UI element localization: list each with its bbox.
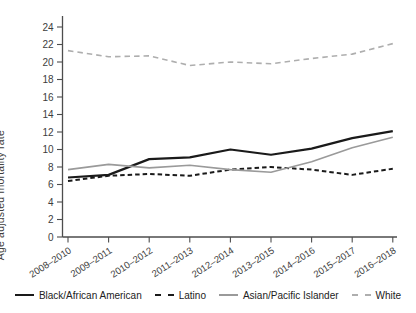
svg-text:2012–2014: 2012–2014 bbox=[190, 244, 236, 279]
svg-text:0: 0 bbox=[48, 232, 54, 243]
line-sample-dashed-black bbox=[155, 294, 174, 296]
y-axis-title-text: Age adjusted mortality rate bbox=[0, 130, 6, 260]
line-sample-solid-gray bbox=[219, 294, 238, 296]
chart-canvas: 0246810121416182022242008–20102009–20112… bbox=[0, 0, 416, 313]
svg-text:2016–2018: 2016–2018 bbox=[352, 244, 398, 279]
legend: Black/African American Latino Asian/Paci… bbox=[0, 284, 416, 306]
svg-text:2014–2016: 2014–2016 bbox=[271, 244, 317, 279]
line-sample-dashed-gray bbox=[352, 294, 371, 296]
svg-text:16: 16 bbox=[42, 92, 54, 103]
legend-label-latino: Latino bbox=[179, 290, 206, 301]
svg-text:22: 22 bbox=[42, 39, 54, 50]
svg-text:2: 2 bbox=[48, 214, 54, 225]
svg-text:2015–2017: 2015–2017 bbox=[311, 244, 357, 279]
legend-label-asian-pacific-islander: Asian/Pacific Islander bbox=[243, 290, 339, 301]
svg-text:14: 14 bbox=[42, 109, 54, 120]
svg-text:4: 4 bbox=[48, 197, 54, 208]
svg-text:6: 6 bbox=[48, 179, 54, 190]
svg-text:18: 18 bbox=[42, 74, 54, 85]
svg-text:2010–2012: 2010–2012 bbox=[108, 244, 154, 279]
svg-text:2009–2011: 2009–2011 bbox=[68, 244, 113, 279]
legend-label-white: White bbox=[376, 290, 402, 301]
svg-text:8: 8 bbox=[48, 162, 54, 173]
legend-item-white: White bbox=[352, 290, 402, 301]
svg-text:2013–2015: 2013–2015 bbox=[230, 244, 276, 279]
legend-item-asian-pacific-islander: Asian/Pacific Islander bbox=[219, 290, 339, 301]
svg-text:12: 12 bbox=[42, 127, 54, 138]
line-sample-solid-black bbox=[15, 294, 34, 296]
svg-text:24: 24 bbox=[42, 22, 54, 33]
svg-text:2011–2013: 2011–2013 bbox=[150, 244, 195, 279]
legend-item-black-african-american: Black/African American bbox=[15, 290, 142, 301]
legend-label-black-african-american: Black/African American bbox=[39, 290, 142, 301]
svg-text:2008–2010: 2008–2010 bbox=[27, 244, 73, 279]
svg-text:20: 20 bbox=[42, 57, 54, 68]
svg-text:10: 10 bbox=[42, 144, 54, 155]
legend-item-latino: Latino bbox=[155, 290, 206, 301]
mortality-rate-chart: 0246810121416182022242008–20102009–20112… bbox=[0, 0, 416, 313]
